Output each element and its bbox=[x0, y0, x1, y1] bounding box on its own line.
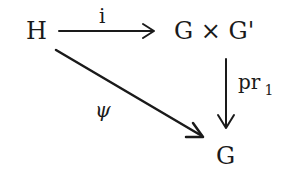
label-i: i bbox=[99, 6, 105, 26]
label-projection: pr1 bbox=[238, 72, 273, 92]
label-pr-subscript: 1 bbox=[264, 82, 273, 98]
inclusion-arrow bbox=[59, 24, 154, 38]
label-pr: pr bbox=[238, 70, 260, 94]
node-h: H bbox=[26, 19, 47, 43]
node-product: G × G' bbox=[174, 19, 254, 43]
node-g: G bbox=[216, 144, 235, 168]
projection-arrow bbox=[218, 59, 234, 128]
label-psi: ψ bbox=[95, 100, 111, 120]
diagonal-arrow bbox=[56, 50, 203, 137]
